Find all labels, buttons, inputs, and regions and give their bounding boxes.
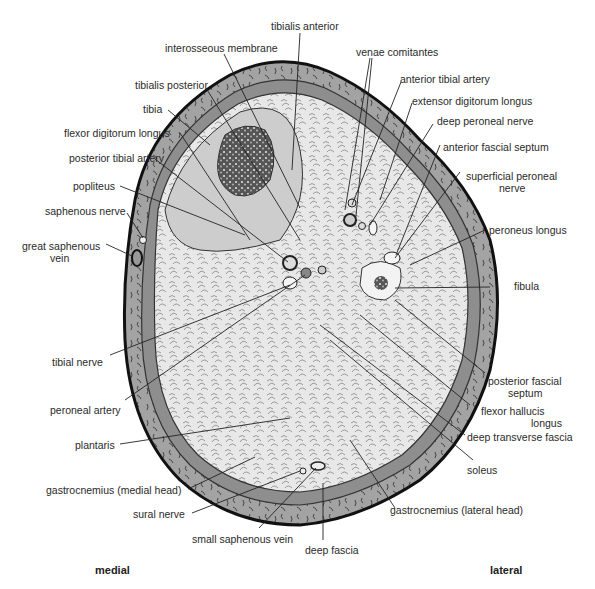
label-peroneus-longus: peroneus longus bbox=[489, 224, 567, 236]
label-gastrocnemius-lateral-head: gastrocnemius (lateral head) bbox=[390, 504, 523, 516]
label-great-saphenous-vein-line1: great saphenous bbox=[22, 240, 100, 252]
tibia bbox=[218, 126, 274, 196]
label-tibialis-anterior: tibialis anterior bbox=[271, 20, 339, 32]
label-saphenous-nerve: saphenous nerve bbox=[45, 205, 126, 217]
label-tibialis-posterior: tibialis posterior bbox=[135, 79, 208, 91]
label-anterior-tibial-artery: anterior tibial artery bbox=[400, 73, 490, 85]
posterior-tibial-vessel bbox=[283, 256, 297, 270]
label-deep-peroneal-nerve: deep peroneal nerve bbox=[437, 115, 533, 127]
label-flexor-digitorum-longus: flexor digitorum longus bbox=[64, 127, 170, 139]
label-anterior-fascial-septum: anterior fascial septum bbox=[443, 141, 549, 153]
sural-nerve-shape bbox=[300, 468, 306, 474]
orientation-medial: medial bbox=[95, 564, 130, 576]
great-saphenous-vein-shape bbox=[132, 250, 142, 266]
label-great-saphenous-vein-line2: vein bbox=[50, 252, 69, 264]
leg-cross-section-figure: tibialis anterior interosseous membrane … bbox=[0, 0, 595, 589]
label-tibia: tibia bbox=[143, 103, 162, 115]
label-flexor-hallucis-longus-line2: longus bbox=[531, 417, 562, 429]
label-flexor-hallucis-longus-line1: flexor hallucis bbox=[481, 405, 545, 417]
label-sural-nerve: sural nerve bbox=[133, 508, 185, 520]
label-fibula: fibula bbox=[514, 280, 539, 292]
label-superficial-peroneal-nerve-line1: superficial peroneal bbox=[466, 170, 557, 182]
anterior-tibial-vessel bbox=[344, 214, 356, 226]
label-posterior-fascial-septum-line1: posterior fascial bbox=[488, 375, 562, 387]
label-peroneal-artery: peroneal artery bbox=[50, 404, 121, 416]
label-extensor-digitorum-longus: extensor digitorum longus bbox=[412, 95, 532, 107]
label-small-saphenous-vein: small saphenous vein bbox=[192, 533, 293, 545]
label-venae-comitantes: venae comitantes bbox=[356, 46, 438, 58]
label-deep-transverse-fascia: deep transverse fascia bbox=[467, 431, 573, 443]
label-posterior-fascial-septum-line2: septum bbox=[508, 387, 542, 399]
label-superficial-peroneal-nerve-line2: nerve bbox=[499, 182, 525, 194]
label-popliteus: popliteus bbox=[73, 180, 115, 192]
label-tibial-nerve: tibial nerve bbox=[52, 356, 103, 368]
label-deep-fascia: deep fascia bbox=[305, 544, 359, 556]
label-interosseous-membrane: interosseous membrane bbox=[165, 42, 278, 54]
orientation-lateral: lateral bbox=[490, 564, 522, 576]
label-posterior-tibial-artery: posterior tibial artery bbox=[69, 152, 164, 164]
cross-section-drawing bbox=[0, 0, 595, 589]
label-plantaris: plantaris bbox=[75, 439, 115, 451]
label-soleus: soleus bbox=[467, 464, 497, 476]
label-gastrocnemius-medial-head: gastrocnemius (medial head) bbox=[46, 484, 181, 496]
small-saphenous-vein-shape bbox=[311, 462, 325, 470]
